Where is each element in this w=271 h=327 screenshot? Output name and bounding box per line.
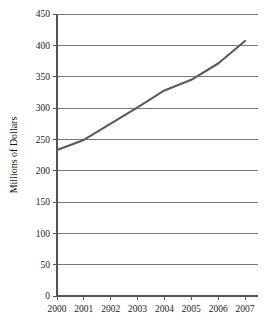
y-tick-label: 100 [36, 229, 51, 239]
y-tick-label: 50 [41, 260, 51, 270]
y-axis-title: Millions of Dollars [8, 117, 19, 194]
x-tick-label: 2007 [236, 304, 255, 314]
y-tick-label: 0 [45, 291, 50, 301]
chart-container: 050100150200250300350400450 200020012002… [0, 0, 271, 327]
x-tick-label: 2001 [74, 304, 93, 314]
y-tick-label: 350 [36, 72, 51, 82]
y-tick-label: 250 [36, 135, 51, 145]
x-tick-label: 2005 [182, 304, 201, 314]
y-tick-label: 450 [36, 9, 51, 19]
x-tick-label: 2006 [209, 304, 228, 314]
y-tick-label: 400 [36, 41, 51, 51]
y-tick-label: 300 [36, 103, 51, 113]
y-tick-label: 200 [36, 166, 51, 176]
x-tick-label: 2000 [48, 304, 67, 314]
x-tick-label: 2004 [155, 304, 174, 314]
y-tick-label: 150 [36, 197, 51, 207]
x-tick-label: 2003 [128, 304, 147, 314]
line-chart: 050100150200250300350400450 200020012002… [0, 0, 271, 327]
x-tick-label: 2002 [101, 304, 120, 314]
